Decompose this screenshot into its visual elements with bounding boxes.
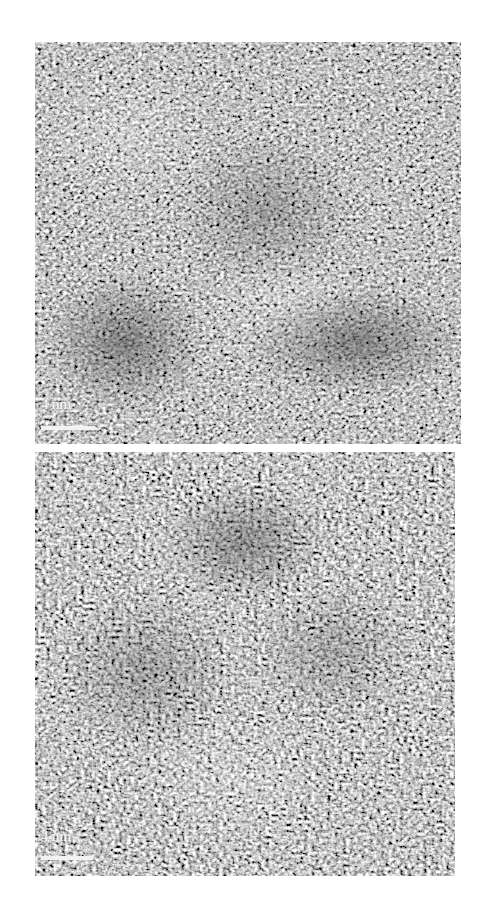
scale-bar-label-bottom: 4 nm bbox=[41, 828, 71, 845]
scale-bar-line-top bbox=[41, 426, 95, 430]
scale-bar-label-top: 4 nm bbox=[41, 396, 71, 413]
tem-texture-top bbox=[35, 42, 461, 444]
scale-bar-top: 4 nm bbox=[39, 386, 109, 436]
tem-image-top: 4 nm bbox=[35, 42, 461, 444]
tem-texture-bottom bbox=[35, 452, 455, 876]
scale-bar-bottom: 4 nm bbox=[39, 818, 109, 868]
scale-bar-line-bottom bbox=[41, 856, 93, 860]
tem-image-bottom: 4 nm bbox=[35, 452, 455, 876]
